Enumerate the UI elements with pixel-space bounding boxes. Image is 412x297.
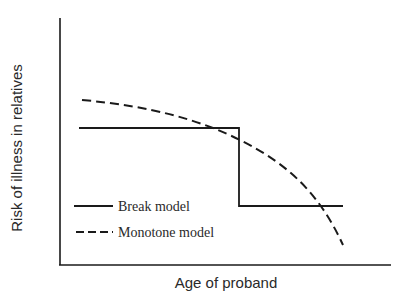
legend-label-monotone: Monotone model — [118, 225, 214, 240]
chart-plot: Break model Monotone model — [0, 0, 412, 297]
y-axis-label: Risk of illness in relatives — [8, 48, 28, 248]
monotone-model-line — [82, 100, 343, 245]
chart: Break model Monotone model Risk of illne… — [0, 0, 412, 297]
legend-label-break: Break model — [118, 199, 190, 214]
x-axis-label: Age of proband — [60, 274, 392, 291]
legend: Break model Monotone model — [74, 199, 214, 240]
break-model-line — [79, 128, 343, 206]
